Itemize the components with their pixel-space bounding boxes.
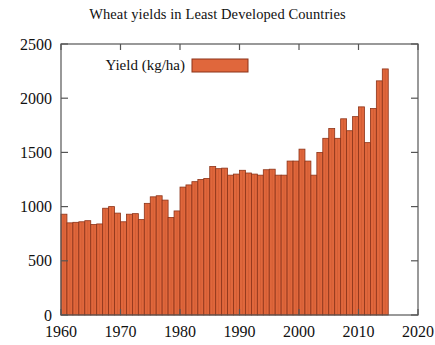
bar <box>376 81 382 315</box>
bar <box>269 169 275 315</box>
y-tick-label: 0 <box>44 307 52 324</box>
x-tick-label: 2000 <box>283 323 315 340</box>
bar <box>364 143 370 315</box>
bar <box>341 119 347 315</box>
bar-chart-plot: 05001000150020002500 1960197019801990200… <box>0 0 435 345</box>
bars-group <box>61 69 388 315</box>
bar <box>257 175 263 315</box>
bar <box>299 149 305 315</box>
bar <box>287 161 293 315</box>
bar <box>335 138 341 315</box>
bar <box>263 170 269 315</box>
y-tick-label: 500 <box>28 252 52 269</box>
y-tick-label: 2500 <box>20 36 52 53</box>
bar <box>234 174 240 315</box>
y-tick-label: 1500 <box>20 144 52 161</box>
bar <box>293 161 299 315</box>
bar <box>85 221 91 315</box>
bar <box>305 161 311 315</box>
bar <box>168 217 174 315</box>
bar <box>359 107 365 315</box>
x-tick-label: 2020 <box>402 323 434 340</box>
bar <box>240 170 246 315</box>
bar <box>370 109 376 316</box>
bar <box>115 213 121 315</box>
bar <box>192 182 198 315</box>
bar <box>186 185 192 315</box>
bar <box>222 168 228 315</box>
bar <box>281 175 287 315</box>
bar <box>109 207 115 315</box>
x-tick-label: 2010 <box>343 323 375 340</box>
y-tick-label: 2000 <box>20 90 52 107</box>
bar <box>210 166 216 315</box>
bar <box>79 222 85 315</box>
x-tick-label: 1990 <box>224 323 256 340</box>
bar <box>329 129 335 315</box>
bar <box>204 178 210 315</box>
bar <box>156 196 162 315</box>
bar <box>180 187 186 315</box>
bar <box>162 200 168 315</box>
bar <box>353 117 359 315</box>
bar <box>317 152 323 315</box>
bar <box>91 224 97 315</box>
y-tick-label: 1000 <box>20 198 52 215</box>
bar <box>216 169 222 315</box>
bar <box>228 175 234 315</box>
bar <box>97 224 103 315</box>
bar <box>150 197 156 315</box>
bar <box>311 175 317 315</box>
chart-container: Wheat yields in Least Developed Countrie… <box>0 0 435 345</box>
bar <box>174 211 180 315</box>
legend-label: Yield (kg/ha) <box>105 57 185 74</box>
bar <box>144 203 150 315</box>
bar <box>67 223 73 315</box>
bar <box>138 220 144 315</box>
bar <box>275 175 281 315</box>
bar <box>198 180 204 316</box>
bar <box>103 208 109 315</box>
legend-color-swatch <box>192 59 248 72</box>
bar <box>347 131 353 315</box>
bar <box>61 214 67 315</box>
x-tick-label: 1980 <box>164 323 196 340</box>
bar <box>245 173 251 315</box>
bar <box>73 222 79 315</box>
bar <box>251 174 257 315</box>
bar <box>323 138 329 315</box>
bar <box>382 69 388 315</box>
bar <box>126 214 132 315</box>
chart-legend: Yield (kg/ha) <box>105 57 248 74</box>
bar <box>132 214 138 315</box>
bar <box>121 222 127 315</box>
x-tick-label: 1960 <box>45 323 77 340</box>
x-tick-label: 1970 <box>105 323 137 340</box>
